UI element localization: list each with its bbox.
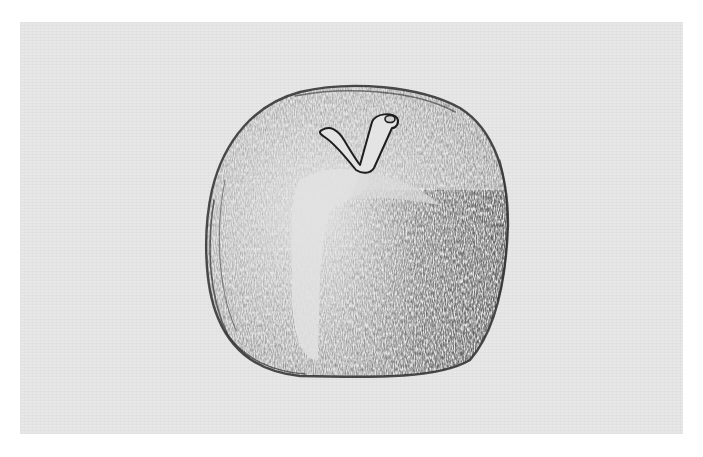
apple-sketch <box>0 0 703 457</box>
apple-body <box>200 80 520 390</box>
